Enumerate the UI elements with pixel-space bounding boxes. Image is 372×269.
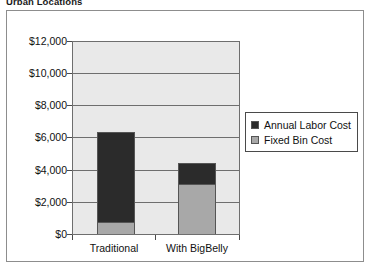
gridline <box>73 105 240 106</box>
x-tick-mark <box>155 235 156 240</box>
plot-right-border <box>239 41 240 235</box>
y-tick-mark <box>67 41 72 42</box>
y-axis: $12,000 $10,000 $8,000 $6,000 $4,000 $2,… <box>7 41 67 235</box>
chart-frame: $12,000 $10,000 $8,000 $6,000 $4,000 $2,… <box>6 10 364 262</box>
y-tick-mark <box>67 202 72 203</box>
legend-label: Fixed Bin Cost <box>264 134 332 146</box>
x-tick-label-traditional: Traditional <box>90 242 139 254</box>
legend-swatch-icon <box>251 121 259 129</box>
chart-title: Urban Locations <box>6 0 82 7</box>
bar-segment-annual-labor-cost[interactable] <box>97 132 135 222</box>
x-tick-mark <box>72 235 73 240</box>
x-tick-mark <box>239 235 240 240</box>
legend-item-fixed-bin-cost[interactable]: Fixed Bin Cost <box>251 132 351 147</box>
legend: Annual Labor Cost Fixed Bin Cost <box>245 112 358 152</box>
y-tick-mark <box>67 73 72 74</box>
bar-with-bigbelly[interactable] <box>178 163 216 234</box>
plot-top-border <box>72 41 240 42</box>
legend-item-annual-labor-cost[interactable]: Annual Labor Cost <box>251 117 351 132</box>
y-tick-label: $10,000 <box>11 67 67 79</box>
y-tick-label: $0 <box>11 228 67 240</box>
y-tick-label: $4,000 <box>11 164 67 176</box>
legend-swatch-icon <box>251 136 259 144</box>
y-tick-mark <box>67 105 72 106</box>
y-tick-label: $8,000 <box>11 99 67 111</box>
legend-label: Annual Labor Cost <box>264 119 351 131</box>
plot-area <box>72 41 240 235</box>
bar-segment-annual-labor-cost[interactable] <box>178 163 216 184</box>
y-tick-label: $6,000 <box>11 131 67 143</box>
y-tick-label: $2,000 <box>11 196 67 208</box>
bar-traditional[interactable] <box>97 132 135 234</box>
gridline <box>73 73 240 74</box>
bar-segment-fixed-bin-cost[interactable] <box>97 222 135 234</box>
y-tick-mark <box>67 170 72 171</box>
bar-segment-fixed-bin-cost[interactable] <box>178 184 216 234</box>
y-tick-label: $12,000 <box>11 35 67 47</box>
y-tick-mark <box>67 137 72 138</box>
x-tick-label-with-bigbelly: With BigBelly <box>166 242 228 254</box>
